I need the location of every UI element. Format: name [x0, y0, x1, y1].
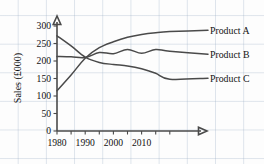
- x-axis: [57, 127, 207, 135]
- series-curves: [57, 30, 208, 91]
- y-tick-label-150: 150: [37, 73, 52, 84]
- series-label-product-c: Product C: [210, 73, 249, 84]
- x-tick-label-2000: 2000: [104, 137, 123, 148]
- y-tick-label-250: 250: [37, 38, 52, 49]
- series-label-product-b: Product B: [210, 49, 250, 60]
- x-tick-label-2010: 2010: [132, 137, 151, 148]
- series-line-product-a: [57, 30, 208, 91]
- x-axis-tick-labels: 1980 1990 2000 2010: [47, 137, 151, 148]
- y-tick-label-200: 200: [37, 55, 52, 66]
- y-tick-label-300: 300: [37, 20, 52, 31]
- y-axis-tick-labels: 300 250 200 150 100 50 0: [37, 20, 52, 136]
- x-tick-label-1980: 1980: [47, 137, 66, 148]
- line-chart: 300 250 200 150 100 50 0 1980 1990 2000 …: [0, 0, 264, 164]
- x-tick-label-1990: 1990: [76, 137, 95, 148]
- series-labels: Product A Product B Product C: [210, 25, 250, 84]
- y-tick-label-50: 50: [41, 108, 51, 119]
- series-label-product-a: Product A: [210, 25, 249, 36]
- y-tick-label-100: 100: [37, 90, 52, 101]
- y-tick-label-0: 0: [46, 125, 51, 136]
- y-axis-title: Sales (£000): [12, 53, 24, 103]
- y-axis-title-label: Sales (£000): [12, 53, 24, 103]
